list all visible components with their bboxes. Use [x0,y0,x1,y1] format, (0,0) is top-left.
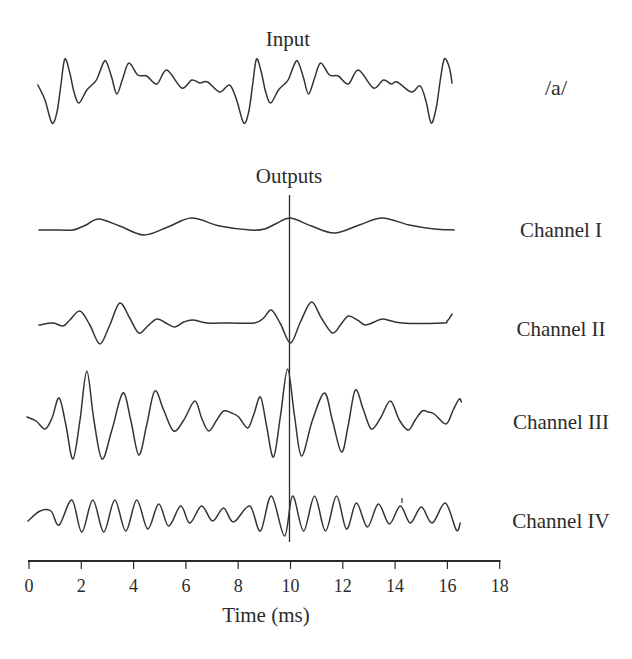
x-axis-title: Time (ms) [222,603,309,627]
input-waveform [38,59,452,124]
x-tick-label: 16 [438,576,456,596]
channel-1-waveform [39,218,454,235]
x-tick-label: 8 [234,576,243,596]
x-tick-label: 4 [129,576,138,596]
channel-2-label: Channel II [516,317,605,341]
channel-2-waveform [39,302,452,344]
x-tick-label: 10 [282,576,300,596]
time-axis: 0 2 4 6 8 10 12 14 16 18 Time (ms) [25,561,509,627]
x-tick-label: 6 [181,576,190,596]
x-tick-label: 18 [491,576,509,596]
outputs-title: Outputs [256,164,323,188]
phoneme-label: /a/ [545,75,568,100]
channel-3-waveform [27,369,461,459]
channel-3-label: Channel III [513,410,609,434]
x-tick-label: 14 [386,576,404,596]
x-tick-label: 2 [77,576,86,596]
input-title: Input [266,27,310,51]
auditory-filterbank-figure: Input /a/ Outputs Channel I Channel II C… [0,0,632,659]
channel-4-label: Channel IV [512,509,609,533]
x-tick-label: 0 [25,576,34,596]
channel-4-waveform [28,496,460,536]
channel-1-label: Channel I [520,218,602,242]
x-tick-label: 12 [334,576,352,596]
